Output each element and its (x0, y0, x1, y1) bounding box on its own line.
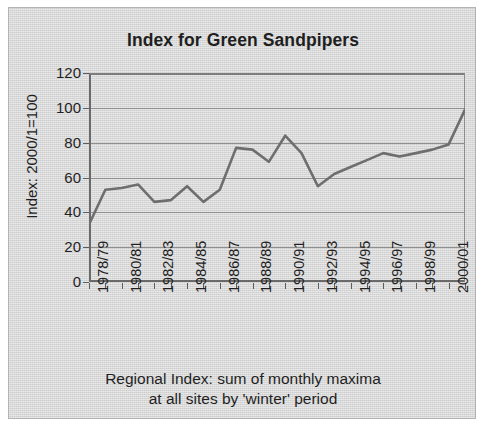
x-tick-label-1996/97: 1996/97 (389, 241, 405, 293)
x-tick-mark-2000/01 (449, 283, 450, 289)
x-tick-label-2000/01: 2000/01 (455, 241, 471, 293)
chart-page: Index for Green Sandpipers Index: 2000/1… (0, 0, 486, 432)
x-tick-label-1982/83: 1982/83 (160, 241, 176, 293)
x-tick-mark-1994/95 (351, 283, 352, 289)
series-line-green-sandpipers (89, 73, 465, 282)
x-tick-label-1988/89: 1988/89 (258, 241, 274, 293)
x-tick-mark-1992/93 (318, 283, 319, 289)
y-tick-label-80: 80 (35, 135, 81, 150)
x-axis-caption: Regional Index: sum of monthly maxima at… (9, 369, 477, 410)
plot-area (89, 73, 465, 282)
x-tick-label-1980/81: 1980/81 (128, 241, 144, 293)
x-tick-label-1984/85: 1984/85 (193, 241, 209, 293)
y-tick-label-60: 60 (35, 170, 81, 185)
x-tick-mark-1998/99 (416, 283, 417, 289)
x-axis-caption-line-1: Regional Index: sum of monthly maxima (9, 369, 477, 389)
x-tick-label-1990/91: 1990/91 (291, 241, 307, 293)
y-tick-label-100: 100 (35, 100, 81, 115)
x-tick-mark-1984/85 (187, 283, 188, 289)
x-tick-mark-1990/91 (285, 283, 286, 289)
x-tick-label-1986/87: 1986/87 (226, 241, 242, 293)
x-tick-mark-1980/81 (122, 283, 123, 289)
y-tick-label-120: 120 (35, 65, 81, 80)
y-tick-label-20: 20 (35, 239, 81, 254)
x-tick-label-1978/79: 1978/79 (95, 241, 111, 293)
scanned-figure-panel: Index for Green Sandpipers Index: 2000/1… (8, 7, 476, 419)
x-tick-mark-1982/83 (154, 283, 155, 289)
y-axis-label: Index: 2000/1=100 (23, 67, 40, 247)
x-tick-mark-1996/97 (383, 283, 384, 289)
x-tick-label-1994/95: 1994/95 (357, 241, 373, 293)
y-tick-label-0: 0 (35, 274, 81, 289)
x-tick-mark-1988/89 (253, 283, 254, 289)
x-tick-mark-1986/87 (220, 283, 221, 289)
x-axis-caption-line-2: at all sites by 'winter' period (9, 389, 477, 409)
x-tick-label-1998/99: 1998/99 (422, 241, 438, 293)
x-tick-label-1992/93: 1992/93 (324, 241, 340, 293)
chart-title: Index for Green Sandpipers (9, 30, 477, 51)
y-tick-label-40: 40 (35, 204, 81, 219)
x-tick-mark-1978/79 (89, 283, 90, 289)
